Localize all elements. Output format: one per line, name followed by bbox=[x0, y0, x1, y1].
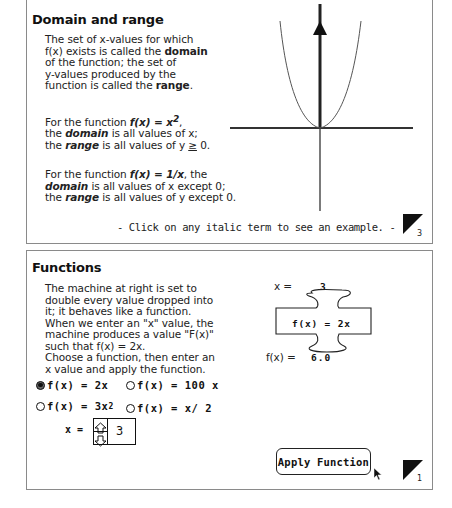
term-domain[interactable]: domain bbox=[65, 127, 108, 139]
arrow-down-icon bbox=[94, 435, 107, 447]
radio-selected-icon[interactable] bbox=[36, 381, 45, 390]
term-x-squared[interactable]: f(x) = x2 bbox=[130, 116, 179, 128]
decrement-button[interactable] bbox=[94, 432, 108, 445]
increment-button[interactable] bbox=[94, 419, 108, 432]
option-x-half[interactable]: f(x) = x/ 2 bbox=[126, 402, 212, 414]
page-number: 1 bbox=[417, 474, 422, 483]
example-x-squared: For the function f(x) = x2, the domain i… bbox=[45, 113, 235, 151]
term-range[interactable]: range bbox=[65, 139, 99, 151]
radio-icon[interactable] bbox=[36, 402, 45, 411]
term-range-2[interactable]: range bbox=[65, 191, 99, 203]
option-100x[interactable]: f(x) = 100 x bbox=[126, 379, 219, 391]
machine-fx-label: f(x) = bbox=[266, 352, 296, 364]
x-input-label: x = bbox=[65, 424, 83, 435]
domain-term: domain bbox=[164, 45, 207, 57]
term-reciprocal[interactable]: f(x) = 1/x bbox=[130, 168, 184, 180]
functions-card: Functions The machine at right is set to… bbox=[26, 250, 433, 490]
parabola-graph bbox=[227, 0, 427, 214]
machine-fx-value: 6.0 bbox=[311, 352, 331, 363]
example-reciprocal: For the function f(x) = 1/x, the domain … bbox=[45, 169, 255, 204]
option-2x[interactable]: f(x) = 2x bbox=[36, 379, 108, 391]
machine-function-label: f(x) = 2x bbox=[292, 318, 351, 329]
card-title: Functions bbox=[32, 260, 101, 275]
domain-range-card: Domain and range The set of x-values for… bbox=[26, 0, 433, 244]
option-3x-squared[interactable]: f(x) = 3x2 bbox=[36, 400, 114, 412]
x-stepper[interactable]: 3 bbox=[93, 418, 136, 445]
range-term: range bbox=[156, 79, 190, 91]
card-title: Domain and range bbox=[32, 12, 164, 27]
description-text: The machine at right is set to double ev… bbox=[45, 283, 245, 375]
term-domain-2[interactable]: domain bbox=[45, 180, 88, 192]
radio-icon[interactable] bbox=[126, 404, 135, 413]
page-number: 3 bbox=[417, 229, 422, 238]
apply-function-button[interactable]: Apply Function bbox=[276, 448, 371, 475]
x-value[interactable]: 3 bbox=[116, 424, 123, 438]
hint-text: - Click on any italic term to see an exa… bbox=[117, 221, 395, 233]
intro-text: The set of x-values for which f(x) exist… bbox=[45, 34, 235, 92]
radio-icon[interactable] bbox=[126, 381, 135, 390]
mouse-cursor-icon bbox=[373, 467, 383, 481]
